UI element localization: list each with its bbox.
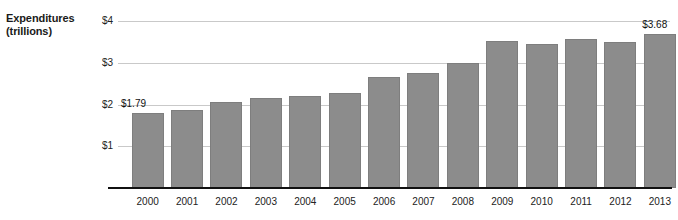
bar[interactable] xyxy=(486,41,518,188)
bar[interactable] xyxy=(132,113,164,188)
bar-slot xyxy=(167,21,206,188)
x-tick-label: 2011 xyxy=(561,196,600,207)
x-tick-label: 2009 xyxy=(483,196,522,207)
bar-slot xyxy=(561,21,600,188)
bar[interactable] xyxy=(447,63,479,188)
bar[interactable] xyxy=(644,34,676,188)
bar-slot xyxy=(286,21,325,188)
bar-slot: $1.79 xyxy=(128,21,167,188)
x-tick-label: 2000 xyxy=(128,196,167,207)
bar[interactable] xyxy=(407,73,439,188)
x-tick-label: 2013 xyxy=(640,196,678,207)
bar[interactable] xyxy=(289,96,321,188)
x-tick-label: 2007 xyxy=(404,196,443,207)
bar[interactable] xyxy=(250,98,282,188)
x-tick-label: 2008 xyxy=(443,196,482,207)
x-tick-label: 2010 xyxy=(522,196,561,207)
x-tick-label: 2004 xyxy=(286,196,325,207)
x-axis-line xyxy=(108,187,672,189)
bar-slot xyxy=(325,21,364,188)
bar[interactable] xyxy=(368,77,400,188)
bar-value-label: $1.79 xyxy=(121,99,146,109)
bar[interactable] xyxy=(526,44,558,188)
x-tick-label: 2003 xyxy=(246,196,285,207)
bar-chart: Expenditures (trillions) $4 $3 $2 $1 $1.… xyxy=(0,0,678,220)
bar-slot: $3.68 xyxy=(640,21,678,188)
x-tick-label: 2005 xyxy=(325,196,364,207)
bar[interactable] xyxy=(604,42,636,188)
y-tick-label-4: $4 xyxy=(93,16,113,26)
bar-value-label: $3.68 xyxy=(642,20,667,30)
bar-slot xyxy=(207,21,246,188)
plot-area: $1.79$3.68 xyxy=(118,21,670,188)
x-tick-label: 2006 xyxy=(364,196,403,207)
bar[interactable] xyxy=(565,39,597,188)
y-axis-title-line-1: Expenditures xyxy=(6,12,92,25)
y-tick-label-2: $2 xyxy=(93,100,113,110)
bar-slot xyxy=(404,21,443,188)
bar[interactable] xyxy=(329,93,361,188)
bar-slot xyxy=(246,21,285,188)
x-tick-label: 2002 xyxy=(207,196,246,207)
x-tick-label: 2012 xyxy=(601,196,640,207)
bar[interactable] xyxy=(171,110,203,188)
y-tick-label-1: $1 xyxy=(93,141,113,151)
bar-slot xyxy=(522,21,561,188)
bar-slot xyxy=(364,21,403,188)
bar-slot xyxy=(483,21,522,188)
bar[interactable] xyxy=(210,102,242,188)
y-tick-label-3: $3 xyxy=(93,58,113,68)
y-axis-title-line-2: (trillions) xyxy=(6,25,92,38)
bar-slot xyxy=(443,21,482,188)
y-axis-title: Expenditures (trillions) xyxy=(6,12,92,38)
bar-slot xyxy=(601,21,640,188)
x-tick-label: 2001 xyxy=(167,196,206,207)
